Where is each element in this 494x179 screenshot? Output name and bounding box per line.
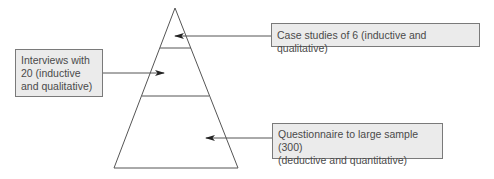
label-questionnaire-line-1: Questionnaire to large sample (300) [278, 128, 437, 154]
label-questionnaire-line-2: (deductive and quantitative) [278, 154, 437, 167]
label-interviews-line-1: Interviews with [21, 54, 97, 67]
label-questionnaire: Questionnaire to large sample (300) (ded… [272, 123, 443, 159]
label-interviews-line-2: 20 (inductive [21, 67, 97, 80]
label-interviews-line-3: and qualitative) [21, 80, 97, 93]
label-interviews: Interviews with 20 (inductive and qualit… [15, 49, 103, 97]
label-case-studies: Case studies of 6 (inductive and qualita… [271, 23, 480, 47]
pyramid-outline [114, 8, 238, 168]
